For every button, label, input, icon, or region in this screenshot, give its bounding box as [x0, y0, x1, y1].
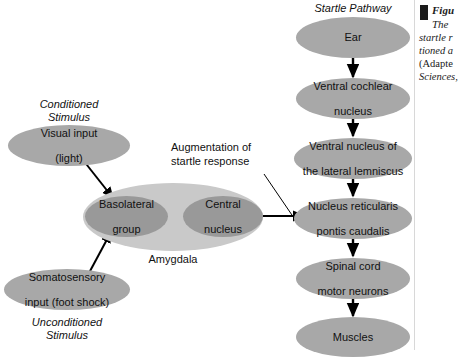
node-ventral-nucleus-lateral-lemniscus[interactable]: Ventral nucleus of the lateral lemniscus	[294, 138, 412, 179]
caption-line-2: startle r	[419, 32, 453, 43]
node-nucleus-reticularis-pontis-caudalis-line2: pontis caudalis	[304, 225, 402, 237]
node-nucleus-reticularis-pontis-caudalis-line1: Nucleus reticularis	[304, 200, 402, 212]
conditioned-stimulus-label: Conditioned Stimulus	[13, 98, 125, 124]
node-spinal-cord-motor-neurons-line1: Spinal cord	[314, 260, 393, 272]
node-somatosensory-input-line2: input (foot shock)	[21, 296, 113, 308]
node-somatosensory-input-line1: Somatosensory	[21, 271, 113, 283]
node-spinal-cord-motor-neurons[interactable]: Spinal cord motor neurons	[296, 258, 410, 299]
node-basolateral-group-line1: Basolateral	[95, 198, 158, 210]
caption-line-3: tioned a	[419, 45, 453, 56]
node-visual-input[interactable]: Visual input (light)	[8, 125, 130, 166]
node-visual-input-line1: Visual input	[37, 127, 102, 139]
node-spinal-cord-motor-neurons-line2: motor neurons	[314, 285, 393, 297]
unconditioned-stimulus-line1: Unconditioned	[32, 316, 102, 328]
node-ventral-nucleus-lateral-lemniscus-line2: the lateral lemniscus	[299, 165, 407, 177]
caption-marker-icon	[420, 5, 428, 20]
startle-pathway-title: Startle Pathway	[303, 2, 403, 14]
amygdala-label: Amygdala	[128, 253, 218, 265]
node-somatosensory-input[interactable]: Somatosensory input (foot shock)	[4, 269, 130, 310]
caption-line-1: The	[432, 18, 449, 30]
augmentation-line2: startle response	[171, 155, 249, 167]
conditioned-stimulus-line2: Stimulus	[48, 111, 90, 123]
node-basolateral-group-line2: group	[95, 223, 158, 235]
node-visual-input-line2: (light)	[37, 152, 102, 164]
caption-figure-word: Figu	[432, 4, 454, 16]
caption-line-4: (Adapte	[419, 58, 453, 69]
node-muscles[interactable]: Muscles	[296, 317, 410, 357]
node-ventral-cochlear-nucleus-line1: Ventral cochlear	[310, 80, 397, 92]
unconditioned-stimulus-line2: Stimulus	[46, 329, 88, 341]
node-basolateral-group[interactable]: Basolateral group	[85, 196, 168, 237]
node-ventral-cochlear-nucleus[interactable]: Ventral cochlear nucleus	[296, 78, 410, 119]
node-central-nucleus-line2: nucleus	[200, 223, 246, 235]
caption-line-5: Sciences,	[419, 71, 458, 82]
node-ear[interactable]: Ear	[296, 17, 410, 58]
figure-caption-panel: Figu The startle r tioned a (Adapte Scie…	[416, 0, 470, 350]
caption-divider	[414, 0, 415, 350]
node-ear-label: Ear	[340, 31, 365, 43]
node-central-nucleus[interactable]: Central nucleus	[183, 196, 263, 237]
unconditioned-stimulus-label: Unconditioned Stimulus	[9, 316, 125, 342]
node-ventral-nucleus-lateral-lemniscus-line1: Ventral nucleus of	[299, 140, 407, 152]
node-ventral-cochlear-nucleus-line2: nucleus	[310, 105, 397, 117]
augmentation-annotation: Augmentation of startle response	[171, 141, 296, 169]
node-muscles-label: Muscles	[329, 331, 377, 343]
node-nucleus-reticularis-pontis-caudalis[interactable]: Nucleus reticularis pontis caudalis	[294, 198, 412, 239]
conditioned-stimulus-line1: Conditioned	[40, 98, 99, 110]
node-central-nucleus-line1: Central	[200, 198, 246, 210]
augmentation-line1: Augmentation of	[171, 141, 251, 153]
